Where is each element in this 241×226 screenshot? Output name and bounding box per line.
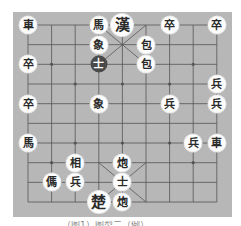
xiangqi-piece[interactable]: 兵	[161, 95, 178, 112]
xiangqi-piece[interactable]: 車	[208, 135, 225, 152]
xiangqi-piece[interactable]: 傌	[43, 174, 60, 191]
point-marker	[192, 161, 195, 164]
point-marker	[121, 82, 124, 85]
xiangqi-piece[interactable]: 象	[90, 95, 107, 112]
xiangqi-piece[interactable]: 車	[20, 17, 37, 34]
xiangqi-piece[interactable]: 兵	[208, 95, 225, 112]
xiangqi-piece[interactable]: 卒	[20, 95, 37, 112]
xiangqi-piece[interactable]: 兵	[185, 135, 202, 152]
xiangqi-piece[interactable]: 漢	[111, 14, 133, 36]
point-marker	[74, 82, 77, 85]
point-marker	[74, 141, 77, 144]
xiangqi-piece[interactable]: 馬	[20, 135, 37, 152]
point-marker	[168, 82, 171, 85]
xiangqi-piece[interactable]: 士	[114, 174, 131, 191]
xiangqi-piece[interactable]: 士	[90, 56, 107, 73]
point-marker	[192, 63, 195, 66]
xiangqi-piece[interactable]: 卒	[161, 17, 178, 34]
xiangqi-piece[interactable]: 兵	[208, 76, 225, 93]
xiangqi-board: 車馬漢卒卒象包卒士包兵卒象兵兵馬兵車相炮傌兵士楚炮	[13, 12, 232, 217]
xiangqi-piece[interactable]: 相	[67, 154, 84, 171]
figure-caption: （图1）图型二（例）	[62, 221, 182, 226]
xiangqi-piece[interactable]: 包	[138, 56, 155, 73]
xiangqi-piece[interactable]: 包	[138, 36, 155, 53]
point-marker	[168, 141, 171, 144]
xiangqi-piece[interactable]: 卒	[20, 56, 37, 73]
xiangqi-piece[interactable]: 炮	[114, 154, 131, 171]
xiangqi-piece[interactable]: 楚	[88, 191, 110, 213]
xiangqi-piece[interactable]: 馬	[90, 17, 107, 34]
point-marker	[121, 141, 124, 144]
xiangqi-piece[interactable]: 炮	[114, 194, 131, 211]
xiangqi-piece[interactable]: 象	[90, 36, 107, 53]
point-marker	[50, 161, 53, 164]
point-marker	[50, 63, 53, 66]
xiangqi-piece[interactable]: 卒	[208, 17, 225, 34]
xiangqi-piece[interactable]: 兵	[67, 174, 84, 191]
